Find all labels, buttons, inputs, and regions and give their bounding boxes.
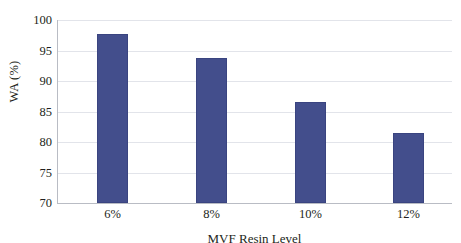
bar-10-percent[interactable] (295, 102, 326, 203)
y-tick-label: 75 (22, 167, 52, 180)
y-tick-label: 85 (22, 106, 52, 119)
bars-layer (57, 20, 452, 203)
bar-6-percent[interactable] (97, 34, 128, 203)
x-tick-label: 12% (379, 207, 439, 221)
plot-area (57, 20, 452, 203)
x-tick-label: 6% (83, 207, 143, 221)
x-axis-title: MVF Resin Level (57, 231, 452, 243)
x-axis-tick-labels: 6% 8% 10% 12% (57, 207, 452, 223)
y-tick-label: 95 (22, 45, 52, 58)
bar-chart: WA (%) 100 95 90 85 80 75 70 6% 8% 10% 1… (0, 0, 461, 243)
y-tick-label: 100 (22, 14, 52, 27)
bar-12-percent[interactable] (393, 133, 424, 203)
y-axis-tick-labels: 100 95 90 85 80 75 70 (18, 20, 52, 203)
y-tick-label: 70 (22, 197, 52, 210)
x-tick-label: 8% (182, 207, 242, 221)
x-tick-label: 10% (281, 207, 341, 221)
y-tick-label: 80 (22, 136, 52, 149)
y-tick-label: 90 (22, 75, 52, 88)
x-axis-line (57, 203, 452, 204)
bar-8-percent[interactable] (196, 58, 227, 203)
